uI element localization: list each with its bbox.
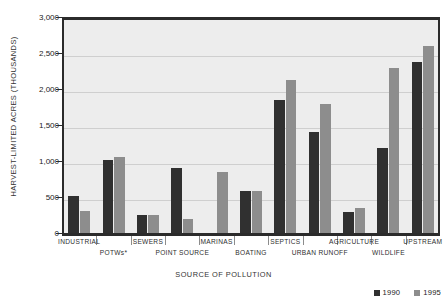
legend-label: 1995 bbox=[423, 288, 441, 297]
x-tick-label-upstream: UPSTREAM bbox=[403, 238, 442, 245]
x-tick-label-potws: POTWs* bbox=[100, 249, 127, 256]
y-tick-label: 2,500 bbox=[13, 49, 59, 58]
bar-point-source-1990 bbox=[171, 168, 182, 233]
bar-boating-1995 bbox=[252, 191, 263, 233]
x-tick-label-point-source: POINT SOURCE bbox=[155, 249, 209, 256]
bar-industrial-1995 bbox=[80, 211, 91, 233]
bar-upstream-1990 bbox=[412, 62, 423, 233]
x-tick-label-septics: SEPTICS bbox=[270, 238, 300, 245]
bar-marinas-1995 bbox=[217, 172, 228, 233]
bar-point-source-1995 bbox=[183, 219, 194, 233]
bar-chart: HARVEST-LIMITED ACRES (THOUSANDS) 3,0002… bbox=[0, 0, 447, 301]
bar-potws-1990 bbox=[103, 160, 114, 233]
x-axis-separator bbox=[268, 236, 269, 245]
bar-agriculture-1990 bbox=[343, 212, 354, 233]
x-axis-separator bbox=[234, 236, 235, 245]
bar-septics-1990 bbox=[274, 100, 285, 233]
bar-boating-1990 bbox=[240, 191, 251, 233]
x-axis-separator bbox=[165, 236, 166, 245]
bar-agriculture-1995 bbox=[355, 208, 366, 233]
bar-wildlife-1995 bbox=[389, 68, 400, 233]
y-tick-label: 3,000 bbox=[13, 13, 59, 22]
x-tick-label-boating: BOATING bbox=[235, 249, 266, 256]
y-tick-label: 2,000 bbox=[13, 85, 59, 94]
x-axis-separator bbox=[303, 236, 304, 245]
legend-item-1990[interactable]: 1990 bbox=[374, 288, 401, 297]
bar-septics-1995 bbox=[286, 80, 297, 233]
bar-industrial-1990 bbox=[68, 196, 79, 233]
bars-layer bbox=[62, 17, 440, 233]
x-axis-separator bbox=[131, 236, 132, 245]
x-tick-label-agriculture: AGRICULTURE bbox=[329, 238, 379, 245]
bar-sewers-1990 bbox=[137, 215, 148, 233]
legend-swatch-icon bbox=[414, 290, 420, 296]
legend-item-1995[interactable]: 1995 bbox=[414, 288, 441, 297]
y-tick-label: 1,000 bbox=[13, 157, 59, 166]
x-tick-label-wildlife: WILDLIFE bbox=[372, 249, 405, 256]
y-tick-label: 0 bbox=[13, 229, 59, 238]
x-tick-label-sewers: SEWERS bbox=[133, 238, 163, 245]
bar-wildlife-1990 bbox=[377, 148, 388, 233]
y-tick-label: 500 bbox=[13, 193, 59, 202]
chart-legend: 19901995 bbox=[374, 288, 441, 297]
x-tick-label-urban-runoff: URBAN RUNOFF bbox=[292, 249, 348, 256]
bar-urban-runoff-1995 bbox=[320, 104, 331, 233]
bar-sewers-1995 bbox=[148, 215, 159, 233]
y-tick-label: 1,500 bbox=[13, 121, 59, 130]
x-axis-line bbox=[62, 233, 440, 236]
bar-urban-runoff-1990 bbox=[309, 132, 320, 233]
x-tick-label-industrial: INDUSTRIAL bbox=[58, 238, 100, 245]
legend-label: 1990 bbox=[383, 288, 401, 297]
x-axis-title: SOURCE OF POLLUTION bbox=[0, 270, 447, 279]
bar-potws-1995 bbox=[114, 157, 125, 233]
y-axis-title: HARVEST-LIMITED ACRES (THOUSANDS) bbox=[9, 10, 18, 224]
legend-swatch-icon bbox=[374, 290, 380, 296]
bar-upstream-1995 bbox=[423, 46, 434, 233]
x-tick-label-marinas: MARINAS bbox=[201, 238, 233, 245]
